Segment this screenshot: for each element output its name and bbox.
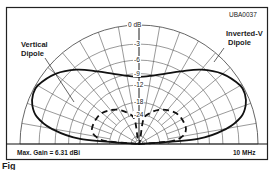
vertical-dipole-label-line2: Dipole [21,50,48,59]
ring-label: -6 [133,56,141,63]
vertical-dipole-label: Vertical Dipole [21,41,48,58]
ring-label: -3 [133,40,141,47]
figure-id-label: UBA0037 [229,11,257,18]
ring-label: -18 [133,98,144,105]
ring-label: -9 [133,70,141,77]
frequency-label: 10 MHz [233,149,255,156]
max-gain-label: Max. Gain = 6.31 dBi [17,149,80,156]
figure-caption-fragment: Fig [2,161,16,170]
ring-label: -12 [133,81,144,88]
ring-label: 0 dB [127,21,142,28]
inverted-v-label-line2: Dipole [226,39,263,48]
ring-label: -24 [133,111,144,118]
inverted-v-label: Inverted-V Dipole [226,30,263,47]
